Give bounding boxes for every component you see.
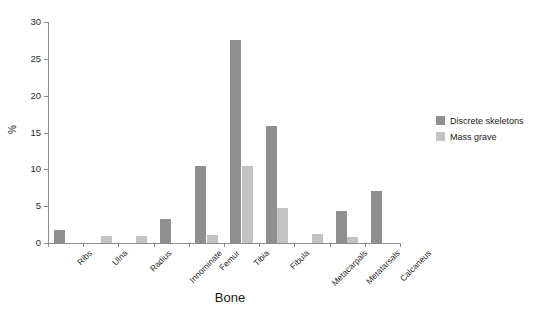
bar-group [330,22,365,243]
legend-swatch-discrete-skeletons [436,116,445,125]
bar-group [259,22,294,243]
bar [101,236,112,243]
y-axis-tick-label: 10 [30,163,41,174]
bar [266,126,277,243]
x-axis-category-label: Metatarsals [364,248,402,286]
bar [195,166,206,243]
x-axis-tick-mark [189,243,190,247]
x-axis-category-label: Ulna [110,248,129,267]
bar-group [154,22,189,243]
bar-group [83,22,118,243]
y-axis-tick-label: 30 [30,16,41,27]
x-axis-category-label: Calcaneus [398,248,433,283]
bar-group [365,22,400,243]
x-axis-category-label: Fibula [288,248,311,271]
bar [136,236,147,243]
y-axis-tick-label: 15 [30,127,41,138]
x-axis-title: Bone [0,290,460,305]
y-axis-tick-label: 25 [30,53,41,64]
x-axis-tick-mark [83,243,84,247]
legend-label-discrete-skeletons: Discrete skeletons [450,116,524,126]
legend: Discrete skeletons Mass grave [436,114,524,146]
bar [336,211,347,243]
bar [277,208,288,243]
x-axis-tick-mark [294,243,295,247]
x-axis-tick-mark [400,243,401,247]
bar-group [48,22,83,243]
legend-swatch-mass-grave [436,132,445,141]
x-axis-tick-mark [48,243,49,247]
bar [312,234,323,243]
x-axis-tick-mark [330,243,331,247]
x-axis-category-label: Radius [148,248,174,274]
y-axis-tick-label: 5 [36,200,41,211]
y-axis-tick-label: 20 [30,90,41,101]
x-axis-tick-mark [224,243,225,247]
x-axis-category-label: Tibia [251,248,271,268]
bar [242,166,253,243]
x-axis-tick-mark [118,243,119,247]
bar-chart: 051015202530 RibsUlnaRadiusInnominateFem… [0,0,544,319]
bar [207,235,218,243]
x-axis-tick-mark [365,243,366,247]
bar [160,219,171,243]
legend-item-discrete-skeletons: Discrete skeletons [436,114,524,127]
bar [230,40,241,243]
legend-label-mass-grave: Mass grave [450,132,497,142]
y-axis-title: % [7,125,18,134]
bar [371,191,382,243]
legend-item-mass-grave: Mass grave [436,130,524,143]
bar [54,230,65,243]
bar [347,237,358,243]
plot-area [48,22,400,243]
x-axis-category-label: Metacarpals [330,248,370,288]
bar-group [189,22,224,243]
x-axis-tick-mark [154,243,155,247]
bar-group [294,22,329,243]
bar-group [224,22,259,243]
bar-group [118,22,153,243]
x-axis-tick-mark [259,243,260,247]
x-axis-category-label: Ribs [75,248,94,267]
y-axis-tick-label: 0 [36,237,41,248]
